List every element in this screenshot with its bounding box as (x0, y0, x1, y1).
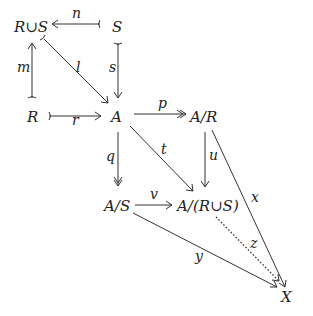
label-y: y (194, 248, 204, 264)
arrow-n (52, 20, 100, 28)
node-r-union-s: R∪S (13, 18, 48, 36)
node-r: R (26, 108, 38, 126)
arrow-t (130, 126, 193, 191)
label-u: u (209, 147, 218, 163)
label-s: s (109, 59, 116, 75)
node-a: A (109, 108, 122, 126)
label-x: x (251, 189, 259, 205)
node-s: S (112, 18, 122, 36)
node-x: X (280, 288, 293, 306)
arrow-l (40, 35, 108, 103)
label-z: z (249, 235, 258, 251)
node-a-mod-s: A/S (102, 197, 130, 215)
label-l: l (76, 59, 80, 75)
label-m: m (17, 59, 30, 75)
label-p: p (158, 95, 167, 111)
label-t: t (161, 141, 167, 157)
node-a-mod-r-union-s: A/(R∪S) (175, 197, 239, 215)
label-q: q (106, 148, 115, 164)
node-a-mod-r: A/R (188, 108, 217, 126)
arrow-p (134, 110, 186, 118)
label-r: r (72, 112, 80, 128)
label-v: v (150, 186, 158, 202)
arrow-v (135, 201, 172, 209)
arrow-u (201, 132, 209, 187)
arrow-q (114, 132, 122, 186)
label-n: n (72, 5, 81, 21)
commutative-diagram: R∪S S R A A/R A/S A/(R∪S) X n m l s r (0, 0, 313, 316)
